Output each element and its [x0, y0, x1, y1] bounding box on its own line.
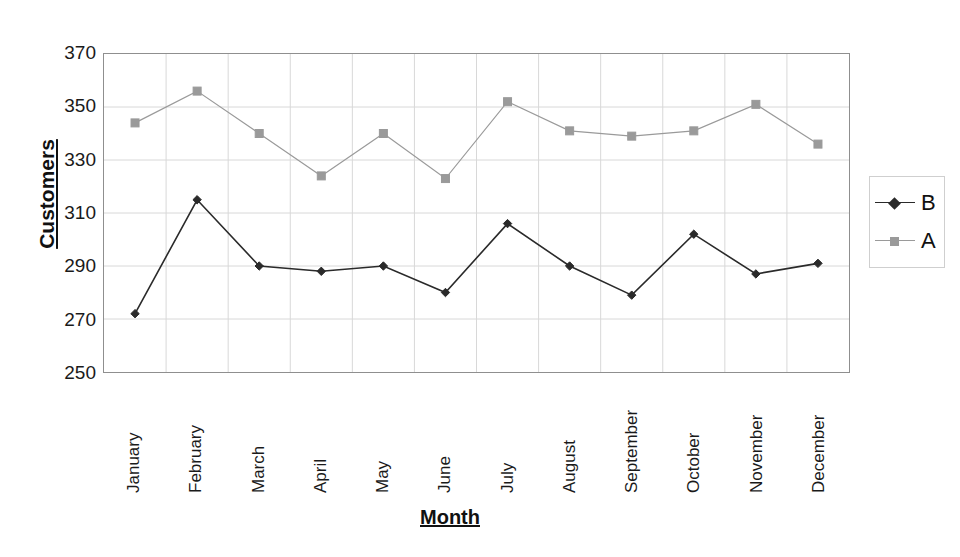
y-tick-label: 330 [38, 150, 96, 169]
data-point-a [379, 130, 387, 138]
data-point-a [504, 98, 512, 106]
x-tick-label: August [560, 383, 580, 493]
x-tick: August [559, 380, 581, 500]
data-point-b [131, 310, 139, 318]
legend-square-marker-icon [890, 237, 899, 246]
data-point-a [131, 119, 139, 127]
data-point-a [690, 127, 698, 135]
x-tick-label: February [186, 383, 206, 493]
legend-swatch-a [875, 234, 915, 248]
x-tick-label: September [622, 383, 642, 493]
data-point-a [317, 172, 325, 180]
chart-legend: BA [869, 176, 945, 268]
data-point-b [379, 262, 387, 270]
data-point-a [814, 140, 822, 148]
x-tick-label: November [747, 383, 767, 493]
y-tick-label: 250 [38, 363, 96, 382]
x-tick-label: March [249, 383, 269, 493]
data-point-b [752, 270, 760, 278]
data-point-a [566, 127, 574, 135]
x-tick-label: May [373, 383, 393, 493]
x-tick: September [621, 380, 643, 500]
x-tick: March [248, 380, 270, 500]
x-axis-title: Month [0, 506, 900, 529]
legend-item-a[interactable]: A [875, 222, 936, 260]
y-tick-label: 350 [38, 96, 96, 115]
y-tick-label: 370 [38, 43, 96, 62]
chart-title [332, 0, 622, 3]
legend-item-b[interactable]: B [875, 184, 936, 222]
x-tick-label: October [684, 383, 704, 493]
plot-svg [104, 54, 849, 372]
x-tick: February [185, 380, 207, 500]
data-point-a [441, 175, 449, 183]
x-tick: October [683, 380, 705, 500]
data-point-a [752, 100, 760, 108]
chart-container: Customers 250270290310330350370 JanuaryF… [0, 0, 960, 557]
x-tick: June [434, 380, 456, 500]
x-axis-tick-labels: JanuaryFebruaryMarchAprilMayJuneJulyAugu… [103, 380, 850, 500]
y-tick-label: 270 [38, 310, 96, 329]
x-tick: January [123, 380, 145, 500]
y-tick-label: 310 [38, 203, 96, 222]
legend-label: A [921, 230, 936, 252]
x-tick-label: January [124, 383, 144, 493]
y-tick-label: 290 [38, 256, 96, 275]
legend-swatch-b [875, 196, 915, 210]
x-tick-label: July [498, 383, 518, 493]
x-tick-label: April [311, 383, 331, 493]
x-tick: April [310, 380, 332, 500]
x-tick-label: June [435, 383, 455, 493]
x-tick: July [497, 380, 519, 500]
plot-area [103, 53, 850, 373]
data-point-a [255, 130, 263, 138]
data-point-a [193, 87, 201, 95]
y-axis-tick-labels: 250270290310330350370 [30, 0, 96, 557]
x-tick: May [372, 380, 394, 500]
x-tick: November [746, 380, 768, 500]
x-tick: December [808, 380, 830, 500]
legend-label: B [921, 192, 936, 214]
data-point-a [628, 132, 636, 140]
x-tick-label: December [809, 383, 829, 493]
data-point-b [317, 267, 325, 275]
legend-diamond-marker-icon [888, 197, 901, 210]
